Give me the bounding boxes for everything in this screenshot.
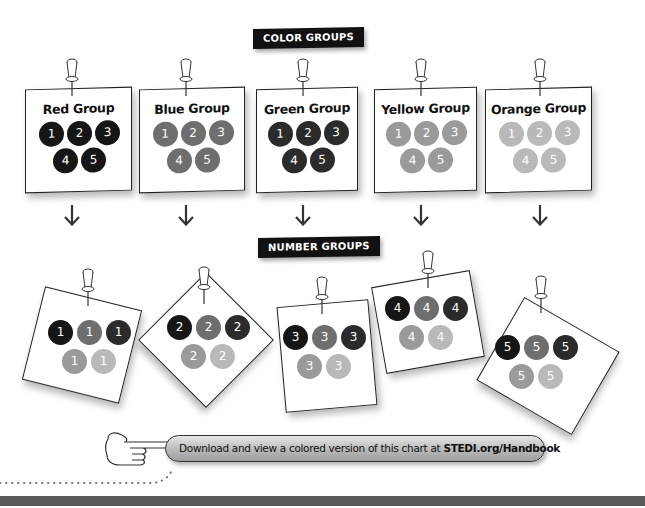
card-green-group: Green Group12345 — [256, 87, 358, 194]
number-dot: 3 — [283, 325, 308, 350]
pushpin-icon — [293, 58, 313, 98]
card-title: Blue Group — [140, 100, 244, 118]
down-arrow-icon — [177, 204, 195, 226]
number-dot: 4 — [399, 325, 424, 350]
pushpin-icon — [411, 58, 431, 98]
number-dot: 5 — [195, 147, 220, 173]
number-dot: 4 — [443, 296, 468, 321]
number-dot: 2 — [210, 344, 235, 369]
pushpin-icon — [530, 58, 550, 98]
number-dot: 5 — [541, 147, 566, 173]
number-dot: 4 — [167, 148, 192, 174]
number-dot: 5 — [495, 335, 520, 360]
number-dot: 3 — [209, 120, 234, 146]
down-arrow-icon — [531, 204, 549, 226]
number-dot: 3 — [312, 325, 337, 350]
number-dot: 1 — [39, 121, 64, 147]
number-dot: 2 — [67, 121, 92, 147]
pushpin-icon — [194, 266, 214, 306]
pushpin-icon — [78, 268, 98, 308]
number-dot: 4 — [428, 325, 453, 350]
number-dot: 3 — [442, 120, 467, 146]
number-dot: 5 — [428, 147, 453, 173]
card-red-group: Red Group12345 — [25, 87, 132, 194]
number-dot: 4 — [513, 148, 538, 174]
number-dot: 3 — [324, 120, 349, 146]
card-title: Red Group — [26, 100, 131, 118]
number-dot: 3 — [326, 354, 351, 379]
card-orange-group: Orange Group12345 — [485, 87, 592, 194]
download-link-pill[interactable]: Download and view a colored version of t… — [165, 435, 545, 462]
number-dot: 2 — [181, 121, 206, 147]
down-arrow-icon — [63, 204, 81, 226]
number-dot: 2 — [296, 121, 321, 147]
number-dot: 4 — [282, 148, 307, 174]
number-dot: 4 — [400, 148, 425, 174]
card-yellow-group: Yellow Group12345 — [374, 87, 477, 194]
number-dot: 3 — [555, 120, 580, 146]
number-dot: 1 — [268, 121, 293, 147]
number-dot: 2 — [527, 121, 552, 147]
pushpin-icon — [312, 276, 332, 316]
number-dot: 2 — [196, 315, 221, 340]
pushpin-icon — [176, 58, 196, 98]
dotted-trail — [0, 465, 200, 490]
card-title: Yellow Group — [375, 100, 476, 118]
pointing-hand-icon — [102, 425, 172, 470]
number-dot: 1 — [62, 349, 87, 374]
number-dot: 3 — [95, 120, 120, 146]
number-dot: 5 — [553, 335, 578, 360]
number-dot: 4 — [414, 296, 439, 321]
card-number-group-3 — [277, 299, 378, 413]
number-dot: 5 — [538, 364, 563, 389]
number-dot: 2 — [414, 121, 439, 147]
pushpin-icon — [531, 275, 551, 315]
number-dot: 1 — [153, 121, 178, 147]
card-blue-group: Blue Group12345 — [139, 87, 245, 194]
number-dot: 3 — [297, 354, 322, 379]
number-dot: 5 — [81, 147, 106, 173]
down-arrow-icon — [412, 204, 430, 226]
number-dot: 3 — [341, 325, 366, 350]
number-dot: 1 — [386, 121, 411, 147]
card-title: Green Group — [257, 100, 357, 118]
number-dot: 4 — [53, 148, 78, 174]
pushpin-icon — [418, 250, 438, 290]
number-dot: 2 — [225, 315, 250, 340]
number-dot: 5 — [524, 335, 549, 360]
number-dot: 4 — [385, 296, 410, 321]
number-groups-banner: NUMBER GROUPS — [258, 236, 380, 258]
number-dot: 1 — [499, 121, 524, 147]
card-title: Orange Group — [486, 100, 591, 118]
color-groups-banner: COLOR GROUPS — [253, 27, 364, 49]
number-dot: 1 — [91, 349, 116, 374]
download-url-link[interactable]: STEDI.org/Handbook — [443, 442, 560, 454]
footer-bar — [0, 496, 645, 506]
number-dot: 5 — [509, 364, 534, 389]
number-dot: 1 — [48, 320, 73, 345]
pushpin-icon — [62, 58, 82, 98]
number-dot: 5 — [310, 147, 335, 173]
number-dot: 1 — [106, 320, 131, 345]
number-dot: 2 — [167, 315, 192, 340]
number-dot: 2 — [181, 344, 206, 369]
down-arrow-icon — [294, 204, 312, 226]
download-text: Download and view a colored version of t… — [179, 442, 443, 454]
number-dot: 1 — [77, 320, 102, 345]
